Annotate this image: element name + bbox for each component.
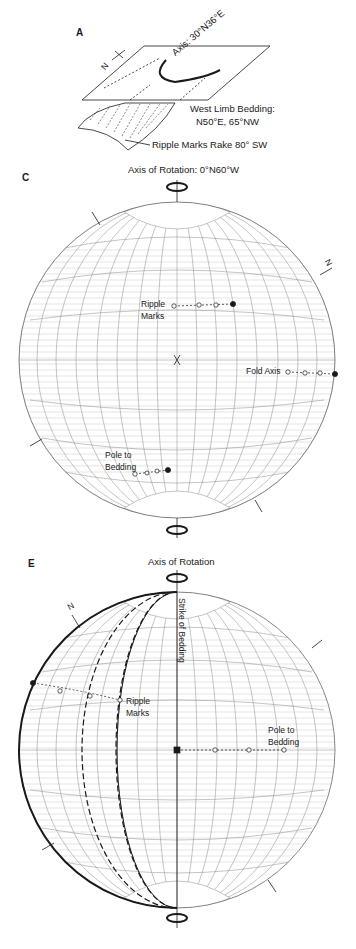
- bedding-title: West Limb Bedding:: [190, 104, 275, 114]
- c-fold-axis-path: [286, 370, 338, 377]
- c-rim-tick: [92, 212, 100, 225]
- panel-e-label: E: [28, 558, 35, 569]
- c-pole-label-1: Pole to: [105, 451, 131, 460]
- e-ripple-label-2: Marks: [126, 709, 149, 718]
- e-rotation-arrow-bottom: [167, 908, 187, 928]
- c-ripple-label-1: Ripple: [141, 300, 165, 309]
- c-ripple-label-2: Marks: [141, 312, 164, 321]
- c-pole-to-bedding-path: [133, 467, 171, 476]
- ripple-rake-label: Ripple Marks Rake 80° SW: [152, 140, 267, 150]
- e-pole-label-1: Pole to: [268, 726, 294, 735]
- e-rotation-arrow-top: [167, 570, 187, 592]
- e-ripple-marks-path: [30, 680, 122, 702]
- c-rotation-arrow-bottom: [167, 518, 187, 538]
- panel-c-axis-title: Axis of Rotation: 0°N60°W: [128, 165, 239, 175]
- c-pole-label-2: Bedding: [105, 463, 136, 472]
- panel-c-label: C: [22, 172, 29, 183]
- bedding-value: N50°E, 65°NW: [196, 117, 259, 127]
- c-rotation-arrow-top: [167, 180, 187, 202]
- panel-e-axis-title: Axis of Rotation: [148, 557, 215, 567]
- e-ripple-label-1: Ripple: [126, 697, 150, 706]
- e-strike-label: Strike of Bedding: [177, 598, 186, 663]
- c-ripple-marks-path: [172, 301, 236, 308]
- panel-a-block-diagram: [78, 46, 270, 150]
- c-fold-axis-label: Fold Axis: [246, 367, 281, 376]
- e-pole-label-2: Bedding: [268, 738, 299, 747]
